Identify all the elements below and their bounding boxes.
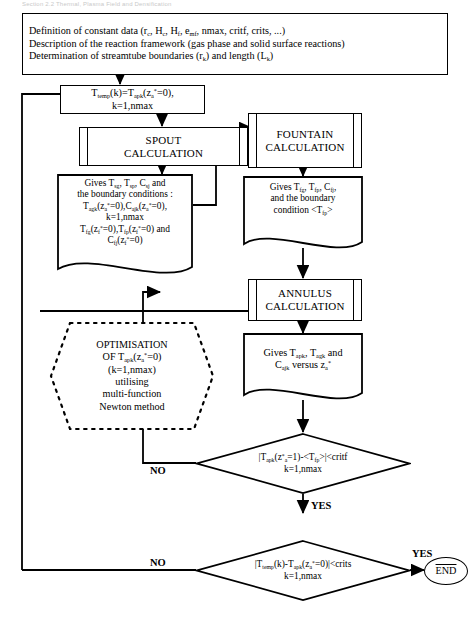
spout-out-line-4: k=1,nmax (106, 212, 144, 223)
decision-fountain-convergence: |Tapk(z*a=1)-<Tfp>|<critf k=1,nmax (195, 432, 411, 495)
optimisation-line-5: multi-function (103, 388, 162, 400)
annulus-label-line1: ANNULUS (278, 287, 332, 300)
fountain-label-line1: FOUNTAIN (277, 128, 334, 141)
end-label: END (436, 565, 457, 577)
optimisation-node: OPTIMISATION OF Tapk(za*=0) (k=1,nmax) u… (48, 320, 216, 432)
spout-label-line1: SPOUT (146, 134, 182, 147)
definition-line-1: Definition of constant data (rc, Hc, Hf,… (29, 25, 441, 37)
fountain-out-line-1: Gives Tfg, Tfp, Cfj, (270, 182, 337, 193)
decision1-line-1: |Tapk(z*a=1)-<Tfp>|<critf (259, 452, 348, 463)
flowchart-diagram: Section 2.2 Thermal, Plasma Field and De… (0, 0, 470, 618)
annulus-out-line-2: Cajk versus za* (275, 359, 331, 371)
predef-bar-right (353, 280, 354, 320)
optimisation-line-1: OPTIMISATION (96, 339, 167, 351)
decision1-no-label: NO (150, 465, 166, 476)
fountain-calculation-process: FOUNTAIN CALCULATION (248, 113, 362, 168)
optimisation-line-4: utilising (115, 376, 148, 388)
decision2-line-2: k=1,nmax (284, 571, 322, 582)
init-line-1: Ttemp(k)=Tapk(za*=0), (61, 87, 204, 99)
spout-out-line-1: Gives Tsg, Tsp, Csj and (84, 178, 165, 189)
spout-out-line-5: Tfg(zf*=0),Tfp(zf*=0) and (80, 224, 170, 235)
definition-line-3: Determination of streamtube boundaries (… (29, 50, 441, 62)
optimisation-line-6: Newton method (99, 401, 164, 413)
decision2-yes-label: YES (412, 548, 432, 559)
fountain-out-line-2: and the boundary (270, 193, 335, 204)
decision-final-convergence: |Ttemp(k)-Tapk(za*=0)|<crits k=1,nmax (195, 539, 411, 602)
spout-output-document: Gives Tsg, Tsp, Csj and the boundary con… (57, 174, 193, 279)
decision1-yes-label: YES (311, 500, 331, 511)
definition-box: Definition of constant data (rc, Hc, Hf,… (22, 13, 448, 75)
spout-out-line-2: the boundary conditions : (77, 189, 173, 200)
annulus-label-line2: CALCULATION (265, 300, 344, 313)
optimisation-line-3: (k=1,nmax) (108, 364, 156, 376)
fountain-label-line2: CALCULATION (265, 141, 344, 154)
definition-line-2: Description of the reaction framework (g… (29, 38, 441, 50)
decision2-no-label: NO (150, 557, 166, 568)
initialisation-box: Ttemp(k)=Tapk(za*=0), k=1,nmax (60, 85, 205, 114)
predef-bar-right (353, 114, 354, 167)
spout-out-line-3: Tagk(za*=0),Cajk(za*=0), (83, 201, 167, 212)
spout-out-line-6: Cfj(zf*=0) (107, 235, 142, 246)
spout-calculation-process: SPOUT CALCULATION (79, 127, 248, 166)
decision1-line-2: k=1,nmax (284, 464, 322, 475)
spout-label-line2: CALCULATION (124, 147, 203, 160)
annulus-calculation-process: ANNULUS CALCULATION (248, 279, 362, 321)
annulus-out-line-1: Gives Tapk, Tagk and (263, 347, 342, 359)
end-terminator: END (424, 557, 468, 585)
predef-bar-right (239, 128, 240, 165)
decision2-line-1: |Ttemp(k)-Tapk(za*=0)|<crits (255, 559, 352, 570)
annulus-output-document: Gives Tapk, Tagk and Cajk versus za* (243, 333, 363, 405)
fountain-out-line-3: condition <Tfp> (274, 205, 333, 216)
init-line-2: k=1,nmax (61, 100, 204, 112)
fountain-output-document: Gives Tfg, Tfp, Cfj, and the boundary co… (243, 176, 363, 254)
optimisation-line-2: OF Tapk(za*=0) (103, 351, 162, 363)
